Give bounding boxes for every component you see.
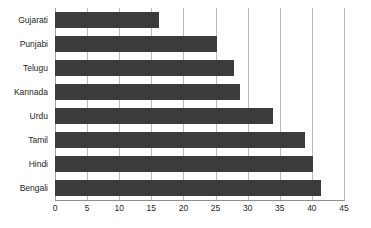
plot-area bbox=[55, 8, 344, 200]
y-axis-tick-label: Urdu bbox=[0, 108, 48, 124]
bar bbox=[55, 156, 313, 172]
gridline bbox=[344, 8, 345, 200]
y-axis-tick-label: Gujarati bbox=[0, 12, 48, 28]
y-axis-tick-label: Punjabi bbox=[0, 36, 48, 52]
x-axis-tick-label: 30 bbox=[243, 203, 252, 213]
bar bbox=[55, 108, 273, 124]
x-axis-tick-label: 40 bbox=[307, 203, 316, 213]
x-axis-tick-label: 0 bbox=[53, 203, 58, 213]
bar-row bbox=[55, 60, 234, 76]
x-axis-tick-label: 35 bbox=[275, 203, 284, 213]
y-axis-tick-label: Kannada bbox=[0, 84, 48, 100]
x-axis-tick-label: 10 bbox=[114, 203, 123, 213]
x-axis-tick-label: 15 bbox=[147, 203, 156, 213]
bar-row bbox=[55, 180, 321, 196]
y-axis-tick-label: Tamil bbox=[0, 132, 48, 148]
bar bbox=[55, 180, 321, 196]
y-axis-tick-label: Bengali bbox=[0, 180, 48, 196]
bar bbox=[55, 60, 234, 76]
bar-series bbox=[55, 8, 344, 200]
x-axis-tick-label: 5 bbox=[85, 203, 90, 213]
y-axis-labels: Gujarati Punjabi Telugu Kannada Urdu Tam… bbox=[0, 8, 50, 200]
x-axis-tick-label: 25 bbox=[211, 203, 220, 213]
y-axis-tick-label: Hindi bbox=[0, 156, 48, 172]
bar bbox=[55, 132, 305, 148]
y-axis-tick-label: Telugu bbox=[0, 60, 48, 76]
bar-row bbox=[55, 156, 313, 172]
bar-row bbox=[55, 36, 217, 52]
bar-row bbox=[55, 108, 273, 124]
bar-row bbox=[55, 12, 159, 28]
x-axis-line bbox=[55, 200, 345, 201]
bar-row bbox=[55, 84, 240, 100]
x-axis-labels: 0 5 10 15 20 25 30 35 40 45 bbox=[55, 203, 345, 223]
bar bbox=[55, 36, 217, 52]
x-axis-tick-label: 45 bbox=[339, 203, 348, 213]
bar bbox=[55, 12, 159, 28]
bar-chart: Gujarati Punjabi Telugu Kannada Urdu Tam… bbox=[0, 0, 371, 228]
x-axis-tick-label: 20 bbox=[179, 203, 188, 213]
bar bbox=[55, 84, 240, 100]
bar-row bbox=[55, 132, 305, 148]
